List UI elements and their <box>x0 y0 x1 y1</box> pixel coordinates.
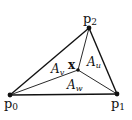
label-x: x <box>68 58 76 72</box>
edge-p0-p1 <box>10 94 117 95</box>
triangle-edges <box>10 28 117 95</box>
label-p1: p1 <box>111 96 125 112</box>
point-x-dot <box>76 68 80 72</box>
label-area-w: Aw <box>66 78 83 93</box>
label-p2: p2 <box>83 11 97 27</box>
barycentric-diagram: p0 p1 p2 x Av Au Aw <box>0 0 132 120</box>
label-area-v: Av <box>50 62 65 77</box>
inner-edges <box>10 28 117 95</box>
label-p0: p0 <box>4 96 18 112</box>
label-area-u: Au <box>86 55 101 70</box>
